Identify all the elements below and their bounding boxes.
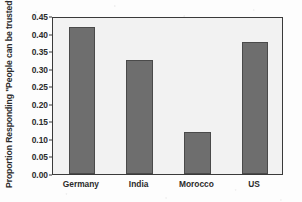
y-axis-title: Proportion Responding "People can be tru… <box>3 8 16 188</box>
y-axis-tick-mark <box>49 175 52 176</box>
y-axis-tick-mark <box>49 52 52 53</box>
bars-layer <box>53 18 282 174</box>
y-axis-tick-label: 0.35 <box>24 47 48 57</box>
bar-india <box>126 60 153 174</box>
y-axis-tick-mark <box>49 34 52 35</box>
y-axis-tick-mark <box>49 139 52 140</box>
y-axis-tick-mark <box>49 104 52 105</box>
y-axis-tick-label: 0.10 <box>24 135 48 145</box>
y-axis-tick-label: 0.15 <box>24 117 48 127</box>
y-axis-tick-label: 0.30 <box>24 65 48 75</box>
bar-us <box>242 42 269 174</box>
y-axis-tick-label: 0.40 <box>24 30 48 40</box>
y-axis-tick-label: 0.45 <box>24 12 48 22</box>
plot-area <box>52 17 283 175</box>
y-axis-tick-mark <box>49 69 52 70</box>
y-axis-tick-mark <box>49 87 52 88</box>
x-axis-label-india: India <box>129 179 149 189</box>
bar-morocco <box>184 132 211 174</box>
y-axis-tick-mark <box>49 157 52 158</box>
bar-germany <box>69 27 96 174</box>
bar-chart-figure: Proportion Responding "People can be tru… <box>0 0 302 202</box>
y-axis-tick-label: 0.25 <box>24 82 48 92</box>
x-axis-label-morocco: Morocco <box>179 179 214 189</box>
y-axis-tick-mark <box>49 17 52 18</box>
y-axis-tick-label: 0.05 <box>24 152 48 162</box>
x-axis-label-germany: Germany <box>63 179 99 189</box>
y-axis-tick-mark <box>49 122 52 123</box>
x-axis-label-us: US <box>248 179 260 189</box>
y-axis-tick-label: 0.20 <box>24 100 48 110</box>
y-axis-tick-label: 0.00 <box>24 170 48 180</box>
